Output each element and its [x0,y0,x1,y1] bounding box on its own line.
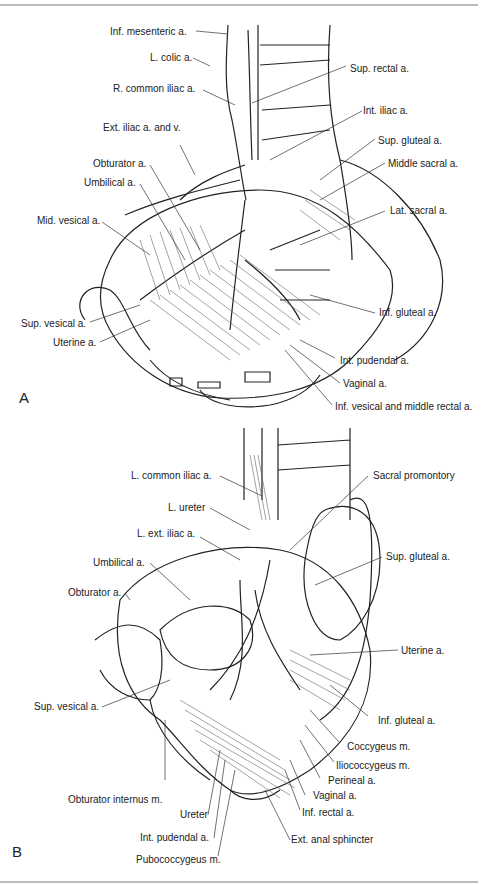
label-sup-vesical-a: Sup. vesical a. [21,318,86,330]
label-obturator-a-b: Obturator a. [68,587,121,599]
panel-letter-a: A [19,389,29,406]
label-l-ext-iliac-a: L. ext. iliac a. [137,528,195,540]
label-middle-sacral-a: Middle sacral a. [388,158,458,170]
label-sup-rectal-a: Sup. rectal a. [350,63,409,75]
label-inf-gluteal-a: Inf. gluteal a. [379,307,436,319]
label-ureter: Ureter [180,809,208,821]
label-int-iliac-a: Int. iliac a. [363,105,408,117]
label-sacral-promontory: Sacral promontory [373,470,455,482]
label-vaginal-a: Vaginal a. [343,378,387,390]
label-lat-sacral-a: Lat. sacral a. [390,205,447,217]
label-sup-vesical-a-b: Sup. vesical a. [34,701,99,713]
label-int-pudendal-a: Int. pudendal a. [340,355,409,367]
label-vaginal-a-b: Vaginal a. [313,790,357,802]
bottom-divider [0,881,478,883]
label-l-ureter: L. ureter [168,502,205,514]
label-inf-vesical-and-middle-rectal-a: Inf. vesical and middle rectal a. [335,401,472,413]
label-obturator-internus-m: Obturator internus m. [68,794,162,806]
label-sup-gluteal-a-b: Sup. gluteal a. [386,551,450,563]
anatomical-illustration [0,0,493,885]
label-sup-gluteal-a: Sup. gluteal a. [378,135,442,147]
label-r-common-iliac-a: R. common iliac a. [113,83,195,95]
label-uterine-a-b: Uterine a. [401,645,444,657]
label-ext-iliac-a-and-v: Ext. iliac a. and v. [103,122,181,134]
label-l-common-iliac-a: L. common iliac a. [131,470,212,482]
label-coccygeus-m: Coccygeus m. [347,741,410,753]
label-mid-vesical-a: Mid. vesical a. [37,215,100,227]
label-l-colic-a: L. colic a. [150,52,192,64]
label-ext-anal-sphincter: Ext. anal sphincter [291,834,373,846]
label-obturator-a: Obturator a. [93,158,146,170]
label-pubococcygeus-m: Pubococcygeus m. [136,854,221,866]
label-inf-rectal-a: Inf. rectal a. [302,807,354,819]
panel-letter-b: B [12,843,22,860]
label-inf-gluteal-a-b: Inf. gluteal a. [378,715,435,727]
label-umbilical-a-b: Umbilical a. [93,557,145,569]
label-perineal-a: Perineal a. [328,775,376,787]
label-umbilical-a: Umbilical a. [84,177,136,189]
label-int-pudendal-a-b: Int. pudendal a. [140,832,209,844]
label-iliococcygeus-m: Iliococcygeus m. [336,760,410,772]
label-uterine-a: Uterine a. [53,337,96,349]
label-inf-mesenteric-a: Inf. mesenteric a. [110,26,187,38]
